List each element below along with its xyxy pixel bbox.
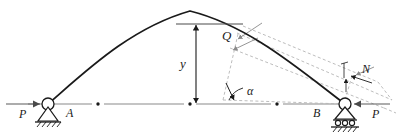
normal-force-tick-cap <box>341 62 348 64</box>
diagram-canvas: y α Q N A <box>0 0 399 134</box>
force-right-label: P <box>371 107 380 121</box>
ground-hatching-left <box>37 122 61 127</box>
roller-wheel-1 <box>335 120 340 125</box>
baseline-dot-3 <box>275 102 278 105</box>
support-right-label: B <box>313 106 321 120</box>
construction-arrows-group <box>233 23 374 92</box>
arch-diagram-figure: y α Q N A <box>0 0 399 134</box>
dashed-line-radial-q <box>223 34 238 100</box>
ground-hatching-right <box>333 127 357 132</box>
pin-triangle-left <box>38 107 58 121</box>
normal-force-arrow <box>351 76 372 83</box>
baseline-dot-1 <box>96 102 99 105</box>
force-left-group: P <box>6 104 40 121</box>
baseline-dot-2 <box>188 102 191 105</box>
baseline-group <box>28 102 340 105</box>
dashed-line-upper-parallel <box>243 26 378 82</box>
dashed-line-tail <box>384 108 396 113</box>
force-left-label: P <box>18 107 27 121</box>
normal-force-label: N <box>361 62 371 76</box>
dashed-line-lower-parallel <box>230 48 384 108</box>
rise-label: y <box>178 56 186 71</box>
dashed-line-far-cap <box>378 82 392 100</box>
pin-triangle-right <box>335 107 355 119</box>
roller-wheel-2 <box>342 120 347 125</box>
roller-wheel-3 <box>349 120 354 125</box>
rise-dimension-group: y <box>176 24 243 103</box>
dashed-construction-group <box>223 26 396 113</box>
support-left-pin: A <box>35 98 74 127</box>
support-right-roller: B <box>313 98 359 132</box>
dashed-line-chord-base <box>223 100 345 104</box>
angle-label: α <box>247 84 254 98</box>
point-q-label: Q <box>222 28 232 43</box>
force-right-group: P <box>354 104 390 121</box>
support-left-label: A <box>65 106 74 120</box>
angle-alpha-group: α <box>226 83 254 100</box>
